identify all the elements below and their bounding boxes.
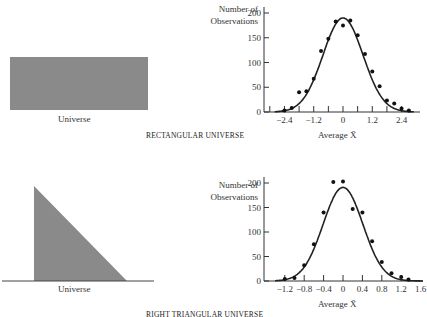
triangular-chart: 050100150200−1.2−0.8−0.400.40.81.21.6 xyxy=(0,0,427,317)
svg-text:1.2: 1.2 xyxy=(396,284,407,294)
svg-text:150: 150 xyxy=(248,203,262,213)
svg-text:200: 200 xyxy=(248,178,262,188)
svg-text:−0.8: −0.8 xyxy=(296,284,313,294)
svg-text:1.6: 1.6 xyxy=(415,284,427,294)
svg-text:100: 100 xyxy=(248,227,262,237)
svg-text:0: 0 xyxy=(341,284,346,294)
svg-text:0.4: 0.4 xyxy=(357,284,369,294)
svg-text:−1.2: −1.2 xyxy=(277,284,293,294)
svg-text:0.8: 0.8 xyxy=(376,284,388,294)
x-axis-label: Average X̄ xyxy=(318,299,357,309)
svg-text:50: 50 xyxy=(252,252,262,262)
svg-text:−0.4: −0.4 xyxy=(315,284,332,294)
svg-text:0: 0 xyxy=(257,276,262,286)
